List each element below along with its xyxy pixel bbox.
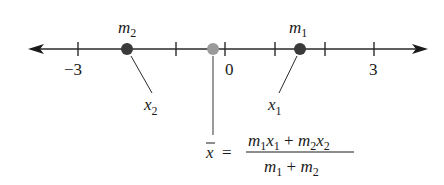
- center-of-mass-formula: x = m1x1 + m2x2 m1 + m2: [205, 131, 354, 179]
- number-line-diagram: −3 0 3 m2 x2 m1 x1 x = m1x1 + m2x2 m1 + …: [0, 0, 444, 185]
- x2-leader-line: [131, 56, 152, 93]
- formula-numerator: m1x1 + m2x2: [248, 131, 330, 153]
- formula-lhs: x: [205, 143, 214, 162]
- mass-m2-dot: [121, 43, 133, 55]
- mass-m2-label: m2: [118, 18, 136, 40]
- x1-label: x1: [267, 95, 282, 118]
- mass-m1-label: m1: [289, 18, 307, 40]
- x1-leader-line: [279, 56, 297, 93]
- mass-m1-dot: [294, 43, 306, 55]
- formula-equals: =: [222, 143, 232, 162]
- tick-label-neg3: −3: [64, 60, 82, 79]
- center-of-mass-dot: [207, 43, 219, 55]
- formula-denominator: m1 + m2: [264, 157, 319, 179]
- x2-label: x2: [143, 95, 158, 118]
- tick-label-3: 3: [369, 60, 378, 79]
- tick-label-0: 0: [225, 60, 234, 79]
